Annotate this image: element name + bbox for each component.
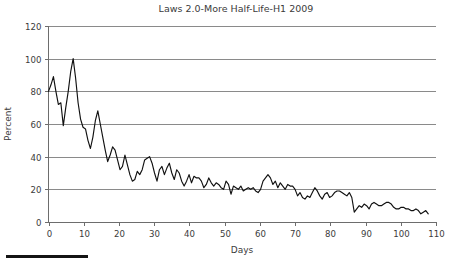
x-tick-label-30: 30 [149, 229, 160, 239]
y-tick-label-20: 20 [31, 185, 42, 195]
y-tick-label-0: 0 [36, 218, 41, 228]
y-tick-label-40: 40 [31, 153, 42, 163]
x-tick-label-80: 80 [325, 229, 336, 239]
x-tick-label-40: 40 [184, 229, 195, 239]
chart-figure: Laws 2.0-More Half-Life-H1 2009 02040608… [0, 0, 452, 262]
black-bar-artifact [6, 255, 88, 258]
x-tick-label-110: 110 [428, 229, 444, 239]
y-tick-label-120: 120 [25, 22, 41, 32]
y-tick-label-60: 60 [31, 120, 42, 130]
x-tick-label-50: 50 [220, 229, 231, 239]
x-tick-label-100: 100 [393, 229, 409, 239]
x-tick-label-20: 20 [114, 229, 125, 239]
x-tick-label-70: 70 [290, 229, 301, 239]
y-tick-label-100: 100 [25, 55, 41, 65]
chart-title: Laws 2.0-More Half-Life-H1 2009 [159, 3, 314, 14]
x-tick-label-0: 0 [47, 229, 52, 239]
y-tick-label-80: 80 [31, 87, 42, 97]
y-axis-label: Percent [3, 107, 13, 141]
x-tick-label-90: 90 [361, 229, 372, 239]
x-tick-label-10: 10 [79, 229, 90, 239]
x-tick-label-60: 60 [255, 229, 266, 239]
x-axis-label: Days [231, 245, 254, 255]
